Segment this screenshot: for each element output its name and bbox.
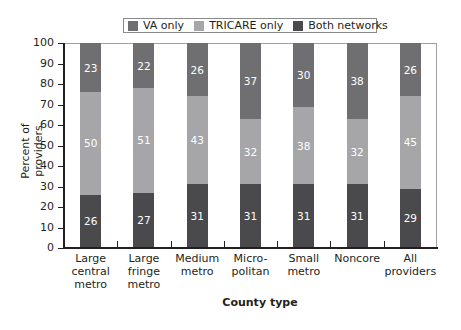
bar-segment: 30 [293, 43, 314, 107]
x-tick-label: Allproviders [380, 252, 440, 278]
x-label-line: Micro- [221, 252, 281, 265]
legend-item: Both networks [293, 19, 387, 32]
legend-label: Both networks [308, 19, 387, 32]
x-label-line: Noncore [327, 252, 387, 265]
x-label-line: Large [61, 252, 121, 265]
x-tick [171, 241, 172, 247]
bar-segment: 51 [133, 88, 154, 193]
bar-segment: 32 [240, 119, 261, 185]
bar-segment: 31 [240, 184, 261, 248]
x-label-line: Large [114, 252, 174, 265]
x-label-line: metro [61, 278, 121, 291]
y-axis-line [63, 43, 65, 249]
bar-segment: 43 [187, 96, 208, 184]
x-tick-label: Largecentralmetro [61, 252, 121, 291]
legend-item: TRICARE only [194, 19, 283, 32]
x-label-line: providers [380, 265, 440, 278]
x-axis-line [63, 247, 438, 249]
bar-segment: 26 [400, 43, 421, 96]
x-label-line: metro [274, 265, 334, 278]
x-tick [384, 241, 385, 247]
y-tick-label: 0 [22, 242, 54, 253]
bar-segment: 38 [347, 43, 368, 119]
x-label-line: All [380, 252, 440, 265]
bar-1: 275122 [133, 43, 154, 248]
bar-segment: 38 [293, 107, 314, 185]
bar-segment: 32 [347, 119, 368, 185]
x-label-line: Small [274, 252, 334, 265]
x-label-line: politan [221, 265, 281, 278]
x-tick [330, 241, 331, 247]
bar-segment: 26 [187, 43, 208, 96]
y-tick-label: 10 [22, 222, 54, 233]
legend-swatch [194, 21, 204, 31]
x-label-line: fringe [114, 265, 174, 278]
x-tick [224, 241, 225, 247]
x-tick-label: Noncore [327, 252, 387, 265]
x-label-line: Medium [167, 252, 227, 265]
bar-0: 265023 [80, 43, 101, 248]
y-tick-label: 100 [22, 37, 54, 48]
x-label-line: metro [114, 278, 174, 291]
bar-5: 313238 [347, 43, 368, 248]
legend: VA onlyTRICARE onlyBoth networks [123, 18, 377, 33]
x-label-line: metro [167, 265, 227, 278]
x-tick [117, 241, 118, 247]
y-tick-label: 80 [22, 78, 54, 89]
bar-4: 313830 [293, 43, 314, 248]
legend-label: VA only [143, 19, 184, 32]
bar-segment: 26 [80, 195, 101, 248]
y-tick-label: 90 [22, 58, 54, 69]
x-tick-label: Smallmetro [274, 252, 334, 278]
x-axis-title: County type [200, 296, 320, 309]
bar-segment: 27 [133, 193, 154, 248]
bar-segment: 29 [400, 189, 421, 248]
legend-swatch [128, 21, 138, 31]
bar-segment: 31 [187, 184, 208, 248]
legend-swatch [293, 21, 303, 31]
bar-3: 313237 [240, 43, 261, 248]
bar-segment: 45 [400, 96, 421, 188]
bar-segment: 50 [80, 92, 101, 195]
x-tick-label: Micro-politan [221, 252, 281, 278]
bar-segment: 37 [240, 43, 261, 119]
x-tick-label: Mediummetro [167, 252, 227, 278]
x-tick [277, 241, 278, 247]
bar-segment: 22 [133, 43, 154, 88]
bar-6: 294526 [400, 43, 421, 248]
x-tick-label: Largefringemetro [114, 252, 174, 291]
x-label-line: central [61, 265, 121, 278]
y-axis-title: Percent of providers [19, 96, 45, 206]
bar-segment: 23 [80, 43, 101, 92]
bar-segment: 31 [347, 184, 368, 248]
bar-segment: 31 [293, 184, 314, 248]
legend-label: TRICARE only [209, 19, 283, 32]
legend-item: VA only [128, 19, 184, 32]
bar-2: 314326 [187, 43, 208, 248]
